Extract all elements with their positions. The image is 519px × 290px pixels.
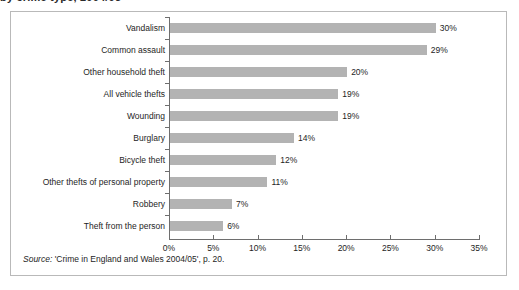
x-axis-line	[169, 239, 480, 240]
x-axis-tick-label: 10%	[238, 243, 278, 253]
category-label: Common assault	[11, 45, 165, 55]
x-axis-tick-label: 0%	[149, 243, 189, 253]
x-axis-tick	[479, 235, 480, 239]
category-label: Burglary	[11, 133, 165, 143]
bar	[170, 177, 267, 187]
x-axis-tick	[213, 235, 214, 239]
y-axis-tick	[165, 61, 169, 62]
y-axis-tick	[165, 105, 169, 106]
source-text: 'Crime in England and Wales 2004/05', p.…	[52, 254, 224, 264]
x-axis-tick	[390, 235, 391, 239]
category-label: Bicycle theft	[11, 155, 165, 165]
figure-caption-remnant: by crime type, 2004/05	[0, 0, 300, 5]
category-label: Wounding	[11, 111, 165, 121]
y-axis-tick	[165, 127, 169, 128]
bar-value-label: 20%	[351, 67, 368, 77]
category-label: Other household theft	[11, 67, 165, 77]
y-axis-tick	[165, 215, 169, 216]
category-label: Other thefts of personal property	[11, 177, 165, 187]
x-axis-tick	[302, 235, 303, 239]
source-label: Source:	[23, 254, 52, 264]
bar-value-label: 6%	[227, 221, 239, 231]
bar	[170, 45, 427, 55]
y-axis-tick	[165, 17, 169, 18]
bar	[170, 67, 347, 77]
y-axis-tick	[165, 39, 169, 40]
bar	[170, 23, 436, 33]
x-axis-tick-label: 15%	[282, 243, 322, 253]
x-axis-tick	[346, 235, 347, 239]
bar-value-label: 14%	[298, 133, 315, 143]
category-label: Theft from the person	[11, 221, 165, 231]
x-axis-tick	[258, 235, 259, 239]
y-axis-tick	[165, 193, 169, 194]
bar	[170, 221, 223, 231]
bar-value-label: 19%	[342, 89, 359, 99]
bar	[170, 89, 338, 99]
y-axis-tick	[165, 83, 169, 84]
category-label: Robbery	[11, 199, 165, 209]
bar-value-label: 29%	[431, 45, 448, 55]
bar-value-label: 12%	[280, 155, 297, 165]
figure-box: Vandalism30%Common assault29%Other house…	[10, 11, 507, 276]
x-axis-tick	[435, 235, 436, 239]
bar	[170, 133, 294, 143]
x-axis-tick-label: 30%	[415, 243, 455, 253]
bar-chart-plot-area: Vandalism30%Common assault29%Other house…	[11, 12, 508, 277]
bar-value-label: 19%	[342, 111, 359, 121]
bar-value-label: 11%	[271, 177, 287, 187]
category-label: All vehicle thefts	[11, 89, 165, 99]
x-axis-tick-label: 20%	[326, 243, 366, 253]
bar	[170, 199, 232, 209]
bar-value-label: 30%	[440, 23, 457, 33]
bar	[170, 111, 338, 121]
x-axis-tick-label: 5%	[193, 243, 233, 253]
source-note: Source: 'Crime in England and Wales 2004…	[23, 254, 224, 265]
bar	[170, 155, 276, 165]
x-axis-tick-label: 35%	[459, 243, 499, 253]
x-axis-tick-label: 25%	[370, 243, 410, 253]
y-axis-tick	[165, 171, 169, 172]
category-label: Vandalism	[11, 23, 165, 33]
bar-value-label: 7%	[236, 199, 248, 209]
y-axis-tick	[165, 149, 169, 150]
